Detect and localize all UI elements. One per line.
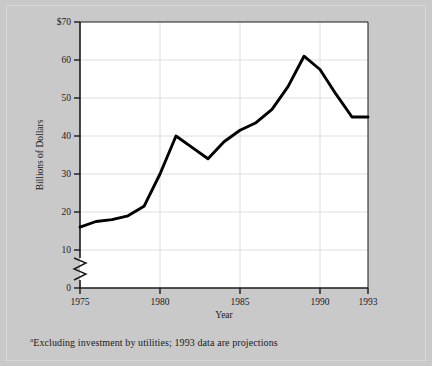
y-tick-label: 20 [62, 207, 72, 217]
y-axis-title: Billions of Dollars [35, 119, 45, 190]
x-tick-label: 1975 [71, 297, 90, 307]
y-tick-label: 10 [62, 245, 72, 255]
y-tick-label: 0 [66, 283, 71, 293]
footnote-text: Excluding investment by utilities; 1993 … [33, 337, 278, 348]
plot-background [80, 22, 368, 288]
y-axis-tick-labels: 0102030405060$70 [57, 17, 72, 293]
y-tick-label: 60 [62, 55, 72, 65]
y-tick-label: $70 [57, 17, 72, 27]
y-tick-label: 50 [62, 93, 72, 103]
x-axis-ticks [80, 288, 368, 294]
y-axis-ticks [74, 22, 80, 288]
line-chart: 0102030405060$70 19751980198519901993 Bi… [0, 0, 432, 366]
x-tick-label: 1985 [231, 297, 250, 307]
x-axis-title: Year [215, 310, 233, 320]
y-tick-label: 30 [62, 169, 72, 179]
y-tick-label: 40 [62, 131, 72, 141]
footnote: aExcluding investment by utilities; 1993… [30, 336, 400, 348]
x-tick-label: 1980 [151, 297, 170, 307]
figure-container: 0102030405060$70 19751980198519901993 Bi… [0, 0, 432, 366]
x-axis-tick-labels: 19751980198519901993 [71, 297, 378, 307]
x-tick-label: 1993 [359, 297, 378, 307]
x-tick-label: 1990 [311, 297, 330, 307]
